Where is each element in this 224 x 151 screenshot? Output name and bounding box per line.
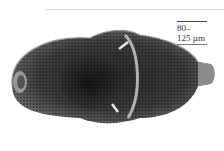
scale-label-line1: 80– [177,23,207,33]
scale-label-line2: 125 µm [177,33,207,43]
scale-bar: 80– 125 µm [177,21,207,45]
scale-bar-line [177,21,207,22]
scale-underline [177,44,207,45]
